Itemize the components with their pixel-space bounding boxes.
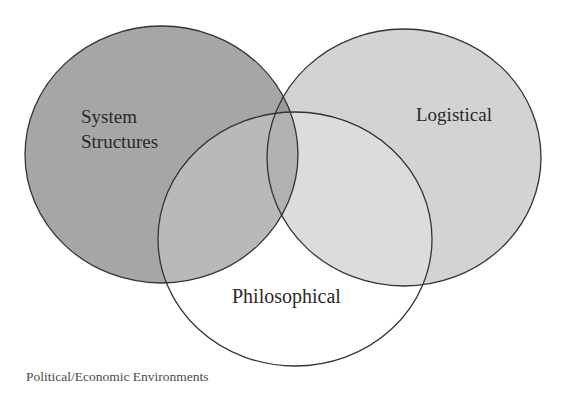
system-structures-label-line1: System (81, 104, 158, 129)
venn-diagram (0, 0, 568, 399)
philosophical-circle (158, 112, 432, 366)
system-structures-label-line2: Structures (81, 129, 158, 154)
philosophical-label: Philosophical (232, 284, 341, 309)
system-structures-label: System Structures (81, 104, 158, 154)
logistical-label: Logistical (416, 102, 492, 127)
diagram-caption: Political/Economic Environments (26, 368, 209, 386)
